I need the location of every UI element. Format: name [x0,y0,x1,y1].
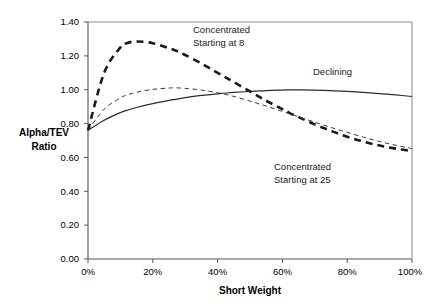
plot-frame [88,22,412,259]
annotation-conc25-line2: Starting at 25 [274,174,331,185]
alpha-tev-ratio-line-chart: 0.00 0.20 0.40 0.60 0.80 1.00 1.20 1.40 … [0,0,440,308]
x-tick-label-0: 0% [81,266,95,277]
chart-container: 0.00 0.20 0.40 0.60 0.80 1.00 1.20 1.40 … [0,0,440,308]
annotation-conc25-line1: Concentrated [274,161,331,172]
y-axis-title: Alpha/TEV Ratio [19,127,69,152]
y-tick-label-7: 1.40 [61,16,80,27]
y-axis: 0.00 0.20 0.40 0.60 0.80 1.00 1.20 1.40 [61,16,89,264]
annotation-conc8-line1: Concentrated [193,24,250,35]
annotation-declining: Declining [313,66,352,77]
y-tick-label-5: 1.00 [61,84,80,95]
x-tick-label-3: 60% [273,266,293,277]
y-axis-title-line1: Alpha/TEV [19,127,69,138]
y-tick-label-2: 0.40 [61,186,80,197]
plot-frame-border [88,22,412,259]
series-line-declining [88,90,412,130]
series-curves [88,41,412,151]
x-tick-label-1: 20% [143,266,163,277]
y-tick-label-3: 0.60 [61,152,80,163]
y-tick-label-1: 0.20 [61,219,80,230]
y-tick-label-6: 1.20 [61,50,80,61]
x-axis: 0% 20% 40% 60% 80% 100% Short Weight [81,259,423,296]
annotation-conc8-line2: Starting at 8 [193,37,244,48]
x-tick-label-4: 80% [338,266,358,277]
annotation-concentrated-starting-at-8: Concentrated Starting at 8 [193,24,250,48]
x-tick-label-5: 100% [398,266,423,277]
series-line-concentrated-starting-at-25 [88,88,412,149]
annotation-declining-line1: Declining [313,66,352,77]
y-axis-ticks [84,22,88,259]
y-tick-label-0: 0.00 [61,253,80,264]
x-axis-ticks [88,259,412,263]
y-axis-title-line2: Ratio [32,141,57,152]
x-tick-label-2: 40% [208,266,228,277]
series-line-concentrated-starting-at-8 [88,41,412,151]
x-axis-title: Short Weight [219,285,282,296]
annotation-concentrated-starting-at-25: Concentrated Starting at 25 [274,161,331,185]
